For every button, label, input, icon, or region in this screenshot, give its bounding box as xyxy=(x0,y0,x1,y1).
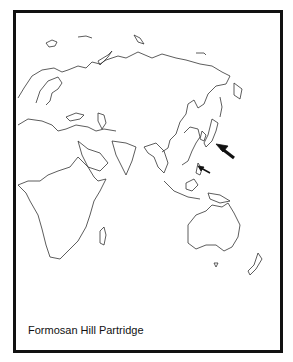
scandinavia xyxy=(36,77,62,105)
map-frame: Formosan Hill Partridge xyxy=(13,10,283,353)
africa xyxy=(18,157,106,259)
new-guinea xyxy=(208,193,230,203)
black-sea xyxy=(66,113,84,121)
large-arrow-icon xyxy=(216,144,234,158)
caspian xyxy=(98,113,106,129)
franz-josef xyxy=(78,36,92,38)
china-coast xyxy=(182,127,200,165)
australia xyxy=(188,203,240,251)
india xyxy=(112,141,136,175)
eurasia-north xyxy=(18,52,230,152)
new-zealand xyxy=(248,253,262,275)
korea xyxy=(200,131,206,141)
world-map xyxy=(16,13,280,313)
svalbard xyxy=(46,40,57,47)
europe-south xyxy=(18,119,116,131)
kamchatka xyxy=(234,83,242,99)
severnaya xyxy=(134,35,144,44)
sumatra-java xyxy=(164,181,200,199)
borneo xyxy=(186,179,198,191)
small-arrow-icon xyxy=(198,166,210,173)
new-siberian xyxy=(196,53,206,55)
japan xyxy=(204,119,218,147)
map-caption: Formosan Hill Partridge xyxy=(28,324,144,336)
se-asia xyxy=(144,143,168,173)
madagascar xyxy=(100,227,106,245)
tasmania xyxy=(214,263,218,267)
sakhalin xyxy=(220,97,222,117)
novaya-zemlya xyxy=(98,51,112,65)
arabia xyxy=(78,141,108,171)
